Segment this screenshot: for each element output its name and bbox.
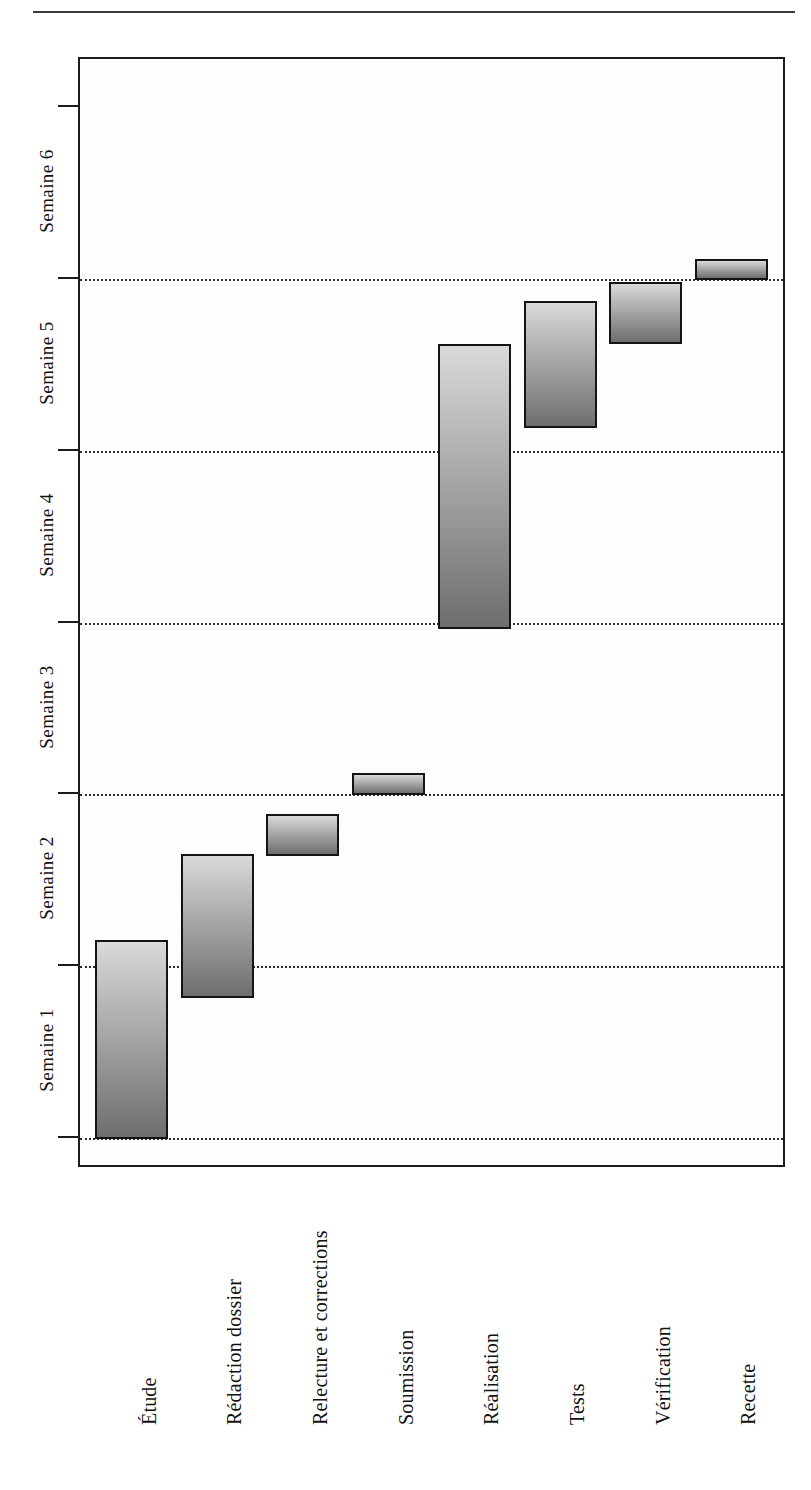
plot-frame bbox=[78, 57, 785, 1167]
gridline bbox=[80, 451, 783, 453]
gridline bbox=[80, 1138, 783, 1140]
y-axis-tick bbox=[58, 792, 78, 794]
y-axis-tick-label: Semaine 6 bbox=[36, 71, 58, 311]
gantt-bar[interactable] bbox=[438, 344, 511, 629]
task-category-label: Recette bbox=[737, 1364, 760, 1425]
gantt-bar[interactable] bbox=[524, 301, 597, 428]
task-category-label: Rédaction dossier bbox=[223, 1279, 246, 1425]
gantt-bar[interactable] bbox=[266, 814, 339, 855]
gantt-bar[interactable] bbox=[352, 773, 425, 795]
gridline bbox=[80, 794, 783, 796]
task-category-label: Relecture et corrections bbox=[309, 1230, 332, 1425]
y-axis-tick bbox=[58, 621, 78, 623]
task-category-label: Vérification bbox=[652, 1326, 675, 1425]
task-category-label: Soumission bbox=[395, 1330, 418, 1425]
y-axis-tick bbox=[58, 964, 78, 966]
gridline bbox=[80, 623, 783, 625]
task-category-label: Tests bbox=[566, 1383, 589, 1425]
y-axis-tick bbox=[58, 277, 78, 279]
page-top-rule bbox=[33, 11, 795, 13]
gridline bbox=[80, 279, 783, 281]
y-axis-tick bbox=[58, 105, 78, 107]
gantt-bar[interactable] bbox=[95, 940, 168, 1139]
y-axis-tick bbox=[58, 1136, 78, 1138]
gantt-bar[interactable] bbox=[695, 259, 768, 280]
task-category-label: Réalisation bbox=[480, 1333, 503, 1425]
gantt-bar[interactable] bbox=[609, 282, 682, 344]
y-axis-tick bbox=[58, 449, 78, 451]
gantt-bar[interactable] bbox=[181, 854, 254, 998]
task-category-label: Étude bbox=[138, 1377, 161, 1425]
